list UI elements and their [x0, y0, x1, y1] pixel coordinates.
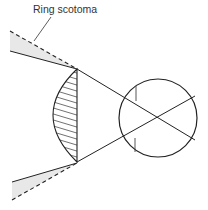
lens-hatching	[40, 62, 80, 170]
label-leader-line	[34, 17, 51, 41]
ring-scotoma-label: Ring scotoma	[33, 3, 97, 15]
lens-outline	[53, 69, 77, 162]
ring-scotoma-diagram: Ring scotoma	[0, 0, 208, 210]
